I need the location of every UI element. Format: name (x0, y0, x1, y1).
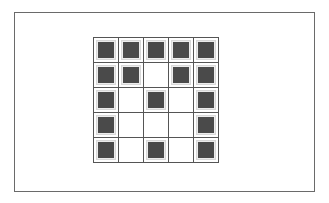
empty-cell (144, 63, 169, 88)
filled-cell (94, 63, 119, 88)
filled-cell (194, 63, 219, 88)
filled-cell (94, 138, 119, 163)
filled-cell (94, 113, 119, 138)
filled-cell (94, 88, 119, 113)
filled-cell (169, 63, 194, 88)
filled-cell (94, 38, 119, 63)
empty-cell (169, 88, 194, 113)
empty-cell (119, 138, 144, 163)
filled-cell (119, 63, 144, 88)
filled-cell (169, 38, 194, 63)
filled-cell (194, 88, 219, 113)
empty-cell (144, 113, 169, 138)
filled-cell (194, 113, 219, 138)
empty-cell (119, 113, 144, 138)
filled-cell (144, 88, 169, 113)
empty-cell (169, 138, 194, 163)
filled-cell (194, 38, 219, 63)
empty-cell (119, 88, 144, 113)
filled-cell (144, 138, 169, 163)
filled-cell (144, 38, 169, 63)
pixel-grid (93, 37, 219, 163)
filled-cell (194, 138, 219, 163)
filled-cell (119, 38, 144, 63)
empty-cell (169, 113, 194, 138)
